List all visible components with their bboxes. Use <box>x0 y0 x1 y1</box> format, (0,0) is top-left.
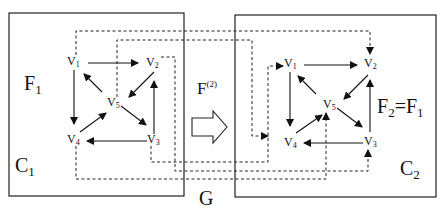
container-c1-box <box>9 13 184 196</box>
right-vertex-v3: V3 <box>364 135 377 149</box>
right-vertex-v2: V2 <box>364 57 377 71</box>
left-vertex-v3: V3 <box>147 133 160 147</box>
right-vertex-v5: V5 <box>323 98 336 112</box>
map-v2-v3 <box>161 57 368 171</box>
map-v1-v2 <box>76 31 370 55</box>
left-function-label: F1 <box>24 73 42 96</box>
mapping-label: F(2) <box>197 80 217 97</box>
left-vertex-v2: V2 <box>146 56 159 70</box>
right-vertex-v1: V1 <box>284 57 297 71</box>
right-container-label: C2 <box>400 158 420 181</box>
outer-graph-label: G <box>199 188 213 208</box>
left-vertex-v5: V5 <box>107 96 120 110</box>
left-container-label: C1 <box>15 155 35 178</box>
left-vertex-v4: V4 <box>67 133 80 147</box>
left-vertex-v1: V1 <box>67 55 80 69</box>
right-function-label: F2=F1 <box>377 96 424 119</box>
mapping-block-arrow <box>192 111 227 143</box>
map-v3-v1 <box>151 66 283 162</box>
right-vertex-v4: V4 <box>284 136 297 150</box>
